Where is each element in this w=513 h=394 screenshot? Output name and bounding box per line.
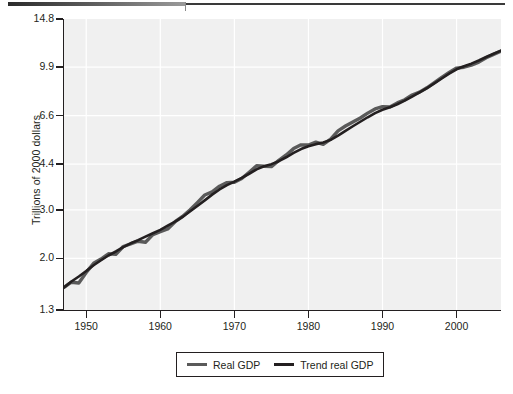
legend-entry-real-gdp: Real GDP	[187, 359, 260, 371]
y-axis-title: Trillions of 2000 dollars	[30, 70, 42, 270]
x-axis-line	[63, 310, 501, 311]
x-tick-label-1970: 1970	[209, 320, 259, 332]
x-tick-mark-1980	[308, 311, 309, 318]
legend-label: Real GDP	[213, 359, 260, 371]
y-tick-mark-6.6	[56, 115, 63, 116]
y-tick-mark-14.8	[56, 18, 63, 19]
x-tick-label-1950: 1950	[61, 320, 111, 332]
y-tick-label-2.0: 2.0	[39, 251, 54, 263]
y-tick-mark-4.4	[56, 163, 63, 164]
data-series-layer	[64, 51, 501, 288]
x-tick-mark-1950	[86, 311, 87, 318]
x-tick-label-1980: 1980	[283, 320, 333, 332]
x-tick-mark-1990	[382, 311, 383, 318]
x-tick-label-1960: 1960	[135, 320, 185, 332]
x-tick-mark-2000	[456, 311, 457, 318]
y-tick-mark-9.9	[56, 66, 63, 67]
y-tick-label-3.0: 3.0	[39, 203, 54, 215]
y-tick-mark-2.0	[56, 258, 63, 259]
y-tick-mark-3.0	[56, 209, 63, 210]
series-line-trend-real-gdp	[64, 51, 501, 288]
y-tick-label-14.8: 14.8	[34, 12, 54, 24]
legend-swatch-icon	[187, 363, 207, 366]
chart-legend: Real GDPTrend real GDP	[176, 352, 384, 377]
series-line-real-gdp	[64, 51, 501, 287]
plot-area	[64, 19, 501, 310]
gdp-line-chart-figure: Trillions of 2000 dollars 1.32.03.04.46.…	[0, 0, 513, 394]
x-tick-mark-1970	[234, 311, 235, 318]
y-tick-mark-1.3	[56, 309, 63, 310]
x-tick-label-2000: 2000	[432, 320, 482, 332]
legend-entry-trend-real-gdp: Trend real GDP	[274, 359, 373, 371]
x-tick-label-1990: 1990	[357, 320, 407, 332]
y-tick-label-9.9: 9.9	[39, 60, 54, 72]
plot-canvas	[64, 19, 501, 310]
legend-label: Trend real GDP	[300, 359, 373, 371]
gridline-layer	[64, 19, 501, 310]
y-tick-label-1.3: 1.3	[39, 303, 54, 315]
x-tick-mark-1960	[160, 311, 161, 318]
y-tick-label-6.6: 6.6	[39, 109, 54, 121]
y-tick-label-4.4: 4.4	[39, 157, 54, 169]
legend-swatch-icon	[274, 363, 294, 366]
